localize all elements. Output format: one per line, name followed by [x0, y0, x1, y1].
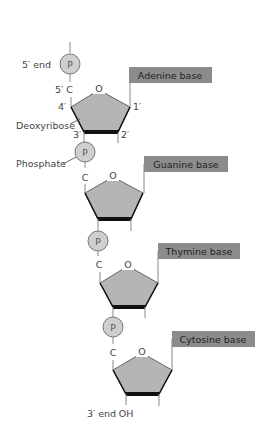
deoxyribose-sugar — [100, 266, 158, 307]
base-label: Cytosine base — [180, 334, 247, 345]
phosphate-label: Phosphate — [16, 158, 66, 169]
nucleotide-3: P C O Thymine base — [88, 231, 240, 318]
dna-strand-diagram: P O Adenine base 5′ end 5′ C 4′ 1′ 3′ 2′… — [0, 0, 270, 427]
carbon-label: C — [110, 347, 117, 358]
two-prime-label: 2′ — [121, 129, 129, 140]
five-prime-end-label: 5′ end — [22, 59, 51, 70]
deoxyribose-label: Deoxyribose — [16, 120, 75, 131]
nucleotide-2: P Phosphate C O Guanine base — [16, 142, 228, 231]
nucleotide-4: P C O Cytosine base 3′ end OH — [87, 317, 255, 419]
oxygen-label: O — [138, 346, 145, 357]
phosphate-symbol: P — [95, 237, 101, 247]
carbon-label: C — [96, 259, 103, 270]
carbon-label: C — [82, 172, 89, 183]
base-label: Guanine base — [153, 159, 219, 170]
phosphate-symbol: P — [82, 148, 88, 158]
four-prime-label: 4′ — [58, 101, 66, 112]
base-label: Thymine base — [165, 246, 233, 257]
nucleotide-1: P O Adenine base 5′ end 5′ C 4′ 1′ 3′ 2′… — [16, 42, 212, 143]
five-prime-c-label: 5′ C — [55, 84, 73, 95]
three-prime-end-label: 3′ end — [87, 408, 116, 419]
oxygen-label: O — [95, 83, 102, 94]
oxygen-label: O — [124, 259, 131, 270]
one-prime-label: 1′ — [133, 101, 141, 112]
hydroxyl-label: OH — [119, 408, 134, 419]
base-label: Adenine base — [138, 70, 203, 81]
oxygen-label: O — [109, 170, 116, 181]
phosphate-symbol: P — [67, 60, 73, 70]
phosphate-symbol: P — [110, 323, 116, 333]
